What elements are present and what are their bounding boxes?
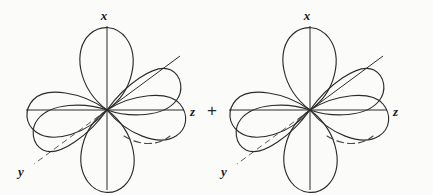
orbital-lobe-right-left (107, 95, 186, 140)
y-axis-label-left: y (16, 164, 24, 179)
orbital-lobe-down-left (81, 110, 134, 192)
orbital-lobe-upper-right-left (107, 68, 181, 114)
orbital-figure-canvas: x z y + (0, 0, 433, 195)
y-axis-line-dashed-right (237, 110, 310, 164)
orbital-figure: x z y + (0, 0, 433, 195)
x-axis-label-right: x (303, 8, 311, 23)
y-axis-line-dashed-left (34, 110, 107, 164)
plus-operator: + (207, 101, 217, 120)
y-axis-line-solid-right (310, 56, 383, 110)
z-axis-label-left: z (189, 104, 196, 119)
z-axis-label-right: z (392, 104, 399, 119)
orbital-lobe-lower-left-right (236, 105, 310, 151)
y-axis-line-solid-left (107, 56, 180, 110)
x-axis-label-left: x (100, 8, 108, 23)
y-axis-label-right: y (219, 164, 227, 179)
orbital-lobe-up-right (283, 28, 336, 110)
orbital-lobe-upper-right-right (310, 68, 384, 114)
orbital-lobe-up-left (80, 28, 133, 110)
orbital-lobe-down-right (284, 110, 337, 192)
orbital-panel-left: x z y (16, 8, 196, 192)
orbital-lobe-right-right (310, 95, 389, 140)
orbital-panel-right: x z y (219, 8, 399, 192)
orbital-lobe-lower-left-left (33, 105, 107, 151)
